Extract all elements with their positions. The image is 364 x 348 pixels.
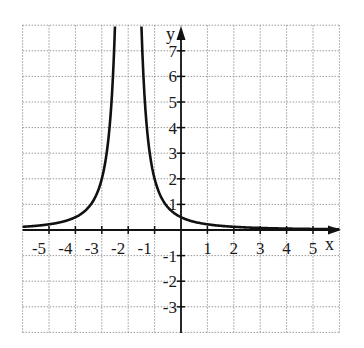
x-tick-label: 1 (203, 239, 212, 258)
x-tick-label: -4 (58, 239, 73, 258)
x-tick-label: 5 (309, 239, 318, 258)
x-tick-label: 3 (256, 239, 265, 258)
y-tick-label: 5 (169, 93, 178, 112)
y-tick-label: -1 (163, 247, 177, 266)
x-tick-label: -5 (32, 239, 46, 258)
y-tick-label: 6 (169, 67, 178, 86)
x-tick-label: -1 (138, 239, 152, 258)
x-tick-label: 4 (282, 239, 291, 258)
x-axis-label: x (325, 234, 334, 254)
x-tick-label: 2 (230, 239, 239, 258)
y-tick-label: -3 (163, 298, 177, 317)
y-tick-label: 3 (169, 144, 178, 163)
y-tick-label: 2 (169, 170, 178, 189)
x-tick-label: -3 (85, 239, 99, 258)
y-tick-label: 7 (169, 42, 178, 61)
curve-left-branch (23, 26, 115, 226)
y-axis-arrow-icon (177, 26, 186, 40)
y-tick-label: 4 (169, 119, 178, 138)
function-graph: -5-4-3-2-1123457654321-1-2-3 x y (0, 0, 364, 348)
y-axis-label: y (166, 24, 175, 44)
y-tick-label: -2 (163, 272, 177, 291)
x-tick-label: -2 (111, 239, 125, 258)
